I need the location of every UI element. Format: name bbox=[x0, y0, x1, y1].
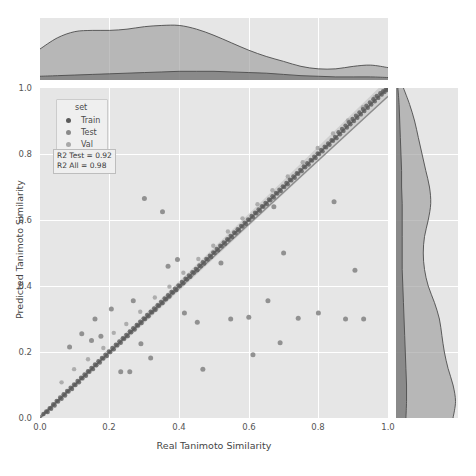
marginal-top-density bbox=[40, 18, 388, 80]
marginal-right-panel bbox=[396, 88, 458, 418]
x-axis-label: Real Tanimoto Similarity bbox=[40, 440, 388, 451]
legend-label-test: Test bbox=[81, 128, 97, 137]
legend-item-test[interactable]: Test bbox=[62, 126, 100, 138]
legend[interactable]: set Train Test Val bbox=[56, 99, 108, 155]
legend-marker-val bbox=[66, 142, 71, 147]
marginal-right-density bbox=[396, 88, 458, 418]
y-axis-label: Predicted Tanimoto Similarity bbox=[14, 85, 25, 415]
xtick-5: 1.0 bbox=[368, 422, 408, 432]
legend-item-train[interactable]: Train bbox=[62, 114, 100, 126]
r2-all-text: R2 All = 0.98 bbox=[57, 161, 112, 171]
marginal-top-panel bbox=[40, 18, 388, 80]
xtick-3: 0.6 bbox=[229, 422, 269, 432]
xtick-2: 0.4 bbox=[159, 422, 199, 432]
xtick-1: 0.2 bbox=[89, 422, 129, 432]
xtick-0: 0.0 bbox=[20, 422, 60, 432]
ytick-0: 0.0 bbox=[4, 413, 32, 423]
r2-test-text: R2 Test = 0.92 bbox=[57, 151, 112, 161]
legend-marker-test bbox=[66, 130, 71, 135]
legend-marker-train bbox=[66, 118, 71, 123]
legend-label-train: Train bbox=[81, 116, 100, 125]
joint-plot-figure: set Train Test Val R2 Test = 0.92 R2 All… bbox=[0, 0, 476, 476]
legend-label-val: Val bbox=[81, 140, 93, 149]
legend-title: set bbox=[62, 103, 100, 112]
r2-annotation-box: R2 Test = 0.92 R2 All = 0.98 bbox=[53, 149, 116, 174]
xtick-4: 0.8 bbox=[298, 422, 338, 432]
